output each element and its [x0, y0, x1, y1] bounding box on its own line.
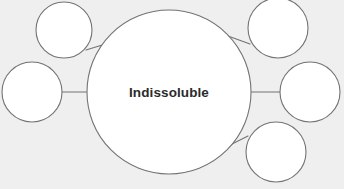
satellite-node-top-right[interactable]	[248, 0, 308, 58]
satellite-node-middle-left[interactable]	[2, 62, 62, 122]
satellite-node-top-left[interactable]	[36, 2, 92, 58]
center-node-label: Indissoluble	[129, 85, 209, 100]
satellite-node-middle-right[interactable]	[280, 62, 340, 122]
satellite-node-bottom-right[interactable]	[246, 122, 306, 182]
bubble-diagram: Indissoluble	[0, 0, 344, 189]
bubble-diagram-canvas: Indissoluble	[0, 0, 344, 189]
